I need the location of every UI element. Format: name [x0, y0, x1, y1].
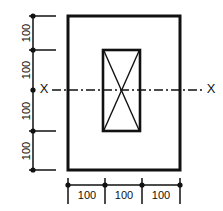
section-label-left: X [40, 81, 49, 96]
dim-tick-v-1 [30, 47, 35, 52]
vertical-dim-label-3: 100 [20, 142, 32, 160]
vertical-dimension-labels: 100 100 100 100 [20, 24, 32, 160]
dim-tick-h-2 [139, 182, 144, 187]
vertical-dim-label-0: 100 [20, 24, 32, 42]
vertical-dim-label-1: 100 [20, 61, 32, 79]
dim-tick-h-1 [102, 182, 107, 187]
horizontal-dim-label-0: 100 [78, 189, 96, 201]
vertical-dim-label-2: 100 [20, 102, 32, 120]
dim-tick-v-2 [30, 87, 35, 92]
outer-rectangle [68, 16, 180, 170]
dim-tick-v-4 [30, 167, 35, 172]
dim-tick-v-3 [30, 128, 35, 133]
horizontal-dim-label-1: 100 [115, 189, 133, 201]
dim-tick-v-0 [30, 13, 35, 18]
technical-drawing-canvas: 100 100 100 100 X X [0, 0, 223, 211]
horizontal-dim-label-2: 100 [152, 189, 170, 201]
dim-tick-h-0 [65, 182, 70, 187]
horizontal-dimension-labels: 100 100 100 [78, 189, 170, 201]
section-label-right: X [207, 81, 216, 96]
dim-tick-h-3 [177, 182, 182, 187]
engineering-drawing-svg: 100 100 100 100 X X [0, 0, 223, 211]
